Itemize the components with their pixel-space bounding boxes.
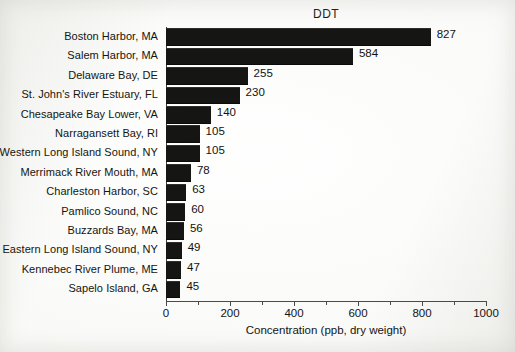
- bar-value-label: 56: [190, 222, 203, 234]
- category-label: Sapelo Island, GA: [68, 282, 158, 294]
- bar-value-label: 105: [206, 144, 225, 156]
- x-axis-tick: [294, 301, 295, 306]
- x-axis-tick-label: 0: [163, 307, 169, 319]
- bar-row: 230: [166, 85, 486, 104]
- category-label: Buzzards Bay, MA: [68, 224, 158, 236]
- plot-area: 82758425523014010510578636056494745: [166, 27, 486, 301]
- bar: [166, 281, 180, 299]
- bar: [166, 28, 431, 46]
- bar-value-label: 63: [192, 183, 205, 195]
- bar-row: 45: [166, 279, 486, 298]
- x-axis-minor-tick: [262, 301, 263, 305]
- bar: [166, 67, 248, 85]
- category-label: Delaware Bay, DE: [68, 69, 158, 81]
- bar-value-label: 49: [188, 241, 201, 253]
- bar-value-label: 45: [186, 280, 199, 292]
- x-axis-tick: [422, 301, 423, 306]
- bar: [166, 145, 200, 163]
- bar-value-label: 255: [254, 67, 273, 79]
- x-axis-tick-label: 1000: [473, 307, 499, 319]
- bar-value-label: 140: [217, 106, 236, 118]
- category-label: Chesapeake Bay Lower, VA: [21, 108, 158, 120]
- x-axis-tick-label: 600: [348, 307, 367, 319]
- category-label: St. John's River Estuary, FL: [21, 88, 158, 100]
- bar: [166, 106, 211, 124]
- bar-row: 105: [166, 124, 486, 143]
- bar-row: 56: [166, 221, 486, 240]
- bar-row: 827: [166, 27, 486, 46]
- category-label: Merrimack River Mouth, MA: [20, 166, 158, 178]
- bar-value-label: 230: [246, 86, 265, 98]
- bar-row: 584: [166, 46, 486, 65]
- bar: [166, 125, 200, 143]
- category-label: Pamlico Sound, NC: [61, 205, 158, 217]
- bar-row: 63: [166, 182, 486, 201]
- bar: [166, 222, 184, 240]
- x-axis-minor-tick: [390, 301, 391, 305]
- bar-row: 105: [166, 143, 486, 162]
- x-axis-minor-tick: [198, 301, 199, 305]
- category-label: Narragansett Bay, RI: [55, 127, 158, 139]
- bar-row: 78: [166, 163, 486, 182]
- bar: [166, 87, 240, 105]
- bar-value-label: 60: [191, 203, 204, 215]
- bar-value-label: 584: [359, 47, 378, 59]
- bar-value-label: 78: [197, 164, 210, 176]
- bar-row: 49: [166, 240, 486, 259]
- bar: [166, 242, 182, 260]
- bar-value-label: 827: [437, 28, 456, 40]
- x-axis-tick-label: 400: [284, 307, 303, 319]
- x-axis-minor-tick: [326, 301, 327, 305]
- x-axis-tick-label: 200: [220, 307, 239, 319]
- bar-value-label: 105: [206, 125, 225, 137]
- bar-value-label: 47: [187, 261, 200, 273]
- x-axis-tick: [486, 301, 487, 306]
- category-label: Salem Harbor, MA: [67, 49, 158, 61]
- x-axis-tick: [230, 301, 231, 306]
- bar-row: 140: [166, 105, 486, 124]
- x-axis-tick: [166, 301, 167, 306]
- bar: [166, 261, 181, 279]
- category-label: Kennebec River Plume, ME: [22, 263, 158, 275]
- x-axis-tick-label: 800: [412, 307, 431, 319]
- category-label: Eastern Long Island Sound, NY: [2, 243, 158, 255]
- chart-title: DDT: [166, 7, 486, 21]
- bar: [166, 164, 191, 182]
- bar: [166, 48, 353, 66]
- x-axis-tick: [358, 301, 359, 306]
- x-axis-minor-tick: [454, 301, 455, 305]
- bar-row: 60: [166, 202, 486, 221]
- bar-row: 255: [166, 66, 486, 85]
- bar-row: 47: [166, 260, 486, 279]
- chart-page: DDT 82758425523014010510578636056494745 …: [0, 0, 515, 352]
- category-label: Western Long Island Sound, NY: [0, 146, 158, 158]
- category-label: Boston Harbor, MA: [64, 30, 158, 42]
- bar: [166, 203, 185, 221]
- category-label: Charleston Harbor, SC: [46, 185, 158, 197]
- bar: [166, 184, 186, 202]
- x-axis-title: Concentration (ppb, dry weight): [166, 324, 486, 336]
